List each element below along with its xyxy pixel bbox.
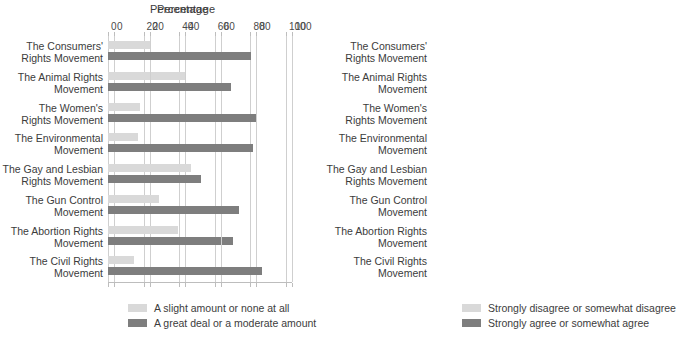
category-label: The Consumers' Rights Movement	[318, 40, 427, 64]
bar-light	[114, 164, 191, 172]
gridline	[292, 36, 293, 282]
bar-group	[114, 221, 292, 252]
x-tick-mark-bottom	[286, 283, 287, 287]
category-label: The Civil Rights Movement	[0, 255, 103, 279]
category-label: The Gay and Lesbian Rights Movement	[0, 163, 103, 187]
category-label: The Civil Rights Movement	[318, 255, 427, 279]
x-tick-mark-bottom	[144, 283, 145, 287]
bar-light	[114, 195, 159, 203]
x-tick-label: 80	[256, 21, 270, 32]
bar-dark	[114, 83, 231, 91]
legend-swatch-light	[462, 304, 481, 312]
x-tick-label: 0	[114, 21, 123, 32]
bar-light	[114, 41, 130, 49]
category-label: The Women's Rights Movement	[0, 102, 103, 126]
x-tick-label: 40	[185, 21, 199, 32]
legend-item: A great deal or a moderate amount	[128, 315, 316, 330]
legend-label: Strongly disagree or somewhat disagree	[488, 302, 676, 314]
bar-group	[114, 128, 292, 159]
x-tick-label: 60	[221, 21, 235, 32]
bar-dark	[114, 52, 251, 60]
bar-light	[114, 103, 132, 111]
category-label: The Gun Control Movement	[318, 194, 427, 218]
legend-item: A slight amount or none at all	[128, 300, 316, 315]
axis-title-right: Percentage	[157, 3, 215, 15]
category-label: The Animal Rights Movement	[318, 71, 427, 95]
bar-light	[114, 72, 150, 80]
bar-dark	[114, 267, 262, 275]
x-tick-label: 100	[292, 21, 312, 32]
bar-dark	[114, 206, 239, 214]
category-label: The Environmental Movement	[0, 132, 103, 156]
bar-group	[114, 251, 292, 282]
bar-light	[114, 256, 134, 264]
bar-dark	[114, 114, 256, 122]
x-tick-mark-bottom	[185, 283, 186, 287]
legend-swatch-light	[128, 304, 147, 312]
x-tick-mark-bottom	[250, 283, 251, 287]
category-label: The Women's Rights Movement	[318, 102, 427, 126]
x-tick-mark-bottom	[215, 283, 216, 287]
bar-light	[114, 133, 135, 141]
chart-panel-right: Percentage 0 20 40 60 80 100	[318, 0, 636, 346]
bar-group	[114, 67, 292, 98]
bar-group	[114, 159, 292, 190]
x-tick-mark-bottom	[221, 283, 222, 287]
legend-swatch-dark	[462, 319, 481, 327]
bar-dark	[114, 175, 196, 183]
x-axis-tick-labels-right: 0 20 40 60 80 100	[114, 21, 292, 35]
x-tick-mark-bottom	[114, 283, 115, 287]
category-label: The Consumers' Rights Movement	[0, 40, 103, 64]
category-label: The Environmental Movement	[318, 132, 427, 156]
x-axis-line	[114, 282, 292, 283]
category-label: The Abortion Rights Movement	[0, 225, 103, 249]
x-tick-mark-bottom	[256, 283, 257, 287]
legend-swatch-dark	[128, 319, 147, 327]
bar-dark	[114, 144, 253, 152]
bar-dark	[114, 237, 219, 245]
legend-item: Strongly agree or somewhat agree	[462, 315, 676, 330]
plot-area-right	[114, 36, 292, 282]
bar-light	[114, 226, 178, 234]
legend-label: Strongly agree or somewhat agree	[488, 317, 649, 329]
legend-label: A slight amount or none at all	[154, 302, 289, 314]
x-tick-mark-bottom	[292, 283, 293, 287]
category-label: The Gun Control Movement	[0, 194, 103, 218]
legend-item: Strongly disagree or somewhat disagree	[462, 300, 676, 315]
x-tick-mark-bottom	[179, 283, 180, 287]
bar-group	[114, 98, 292, 129]
x-tick-mark-bottom	[108, 283, 109, 287]
bar-group	[114, 190, 292, 221]
category-label: The Animal Rights Movement	[0, 71, 103, 95]
category-label: The Abortion Rights Movement	[318, 225, 427, 249]
x-tick-mark-bottom	[150, 283, 151, 287]
category-label: The Gay and Lesbian Rights Movement	[318, 163, 427, 187]
legend-label: A great deal or a moderate amount	[154, 317, 316, 329]
x-tick-label: 20	[150, 21, 164, 32]
legend-left: A slight amount or none at all A great d…	[128, 300, 316, 330]
legend-right: Strongly disagree or somewhat disagree S…	[462, 300, 676, 330]
bar-group	[114, 36, 292, 67]
